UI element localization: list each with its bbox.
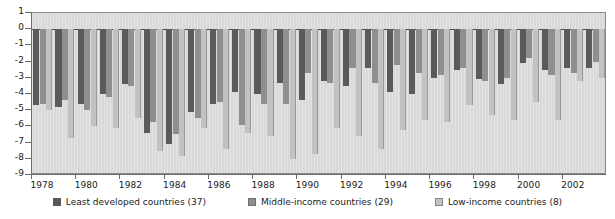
y-tick: [25, 142, 31, 143]
x-tick: [208, 175, 209, 179]
x-tick-label: 1998: [473, 180, 496, 190]
bar: [577, 29, 583, 81]
x-tick: [562, 175, 563, 179]
bar: [356, 29, 362, 136]
bar: [599, 29, 605, 78]
bar: [232, 29, 238, 92]
y-tick-label: -7: [0, 137, 24, 146]
bar: [254, 29, 260, 94]
bar: [135, 29, 141, 118]
x-tick-label: 1980: [75, 180, 98, 190]
bar: [40, 29, 46, 104]
x-tick: [385, 175, 386, 179]
x-tick: [429, 175, 430, 179]
x-tick: [252, 175, 253, 179]
bar: [387, 29, 393, 92]
y-axis: [31, 12, 32, 174]
bar: [482, 29, 488, 81]
x-tick-label: 1990: [296, 180, 319, 190]
bar: [526, 29, 532, 58]
x-tick-label: 1996: [428, 180, 451, 190]
bar: [100, 29, 106, 94]
y-tick: [25, 93, 31, 94]
bar: [498, 29, 504, 84]
x-tick: [75, 175, 76, 179]
bar: [195, 29, 201, 118]
bar: [372, 29, 378, 82]
bar: [261, 29, 267, 104]
bar: [84, 29, 90, 110]
x-tick: [473, 175, 474, 179]
y-tick: [25, 77, 31, 78]
bar: [548, 29, 554, 74]
chart-legend: Least developed countries (37)Middle-inc…: [0, 195, 615, 209]
x-tick: [341, 175, 342, 179]
bar: [144, 29, 150, 133]
bar: [400, 29, 406, 129]
bar: [106, 29, 112, 97]
y-tick-label: 0: [0, 23, 24, 32]
bar: [586, 29, 592, 68]
bar: [327, 29, 333, 82]
y-tick-label: 1: [0, 7, 24, 16]
bar: [46, 29, 52, 110]
bar: [277, 29, 283, 82]
bar: [290, 29, 296, 159]
bar: [349, 29, 355, 68]
bar: [466, 29, 472, 105]
bar: [157, 29, 163, 151]
y-tick-label: -8: [0, 153, 24, 162]
bar: [460, 29, 466, 68]
bar: [438, 29, 444, 74]
bar: [150, 29, 156, 121]
legend-item: Low-income countries (8): [435, 197, 562, 207]
x-tick: [518, 175, 519, 179]
bar: [113, 29, 119, 128]
bar: [55, 29, 61, 107]
bar: [299, 29, 305, 100]
bar: [128, 29, 134, 86]
legend-item: Middle-income countries (29): [248, 197, 393, 207]
x-tick-label: 1984: [163, 180, 186, 190]
x-tick-label: 1994: [384, 180, 407, 190]
bar: [267, 29, 273, 136]
bar: [78, 29, 84, 104]
legend-label: Middle-income countries (29): [261, 197, 393, 207]
bar: [188, 29, 194, 112]
bar: [201, 29, 207, 128]
legend-swatch-icon: [435, 198, 443, 206]
bar: [476, 29, 482, 79]
y-tick-label: -6: [0, 120, 24, 129]
bar: [533, 29, 539, 102]
bar: [520, 29, 526, 63]
y-tick: [25, 61, 31, 62]
bar: [312, 29, 318, 154]
bar: [239, 29, 245, 125]
x-tick: [31, 175, 32, 179]
bar: [173, 29, 179, 134]
y-tick-label: -2: [0, 56, 24, 65]
x-tick-label: 1982: [119, 180, 142, 190]
y-tick: [25, 12, 31, 13]
legend-label: Low-income countries (8): [448, 197, 562, 207]
x-tick-label: 2000: [517, 180, 540, 190]
y-tick-label: -9: [0, 169, 24, 178]
x-tick-label: 1978: [30, 180, 53, 190]
bar: [305, 29, 311, 73]
bar: [217, 29, 223, 102]
bar: [33, 29, 39, 105]
y-tick-label: -3: [0, 72, 24, 81]
bar: [593, 29, 599, 61]
bar: [422, 29, 428, 120]
bar: [365, 29, 371, 68]
x-axis: [31, 174, 606, 175]
bar: [489, 29, 495, 115]
y-tick-label: -5: [0, 104, 24, 113]
bar: [321, 29, 327, 81]
x-tick: [164, 175, 165, 179]
bar: [210, 29, 216, 104]
y-tick: [25, 158, 31, 159]
bar: [542, 29, 548, 70]
bar: [179, 29, 185, 155]
bar: [444, 29, 450, 121]
